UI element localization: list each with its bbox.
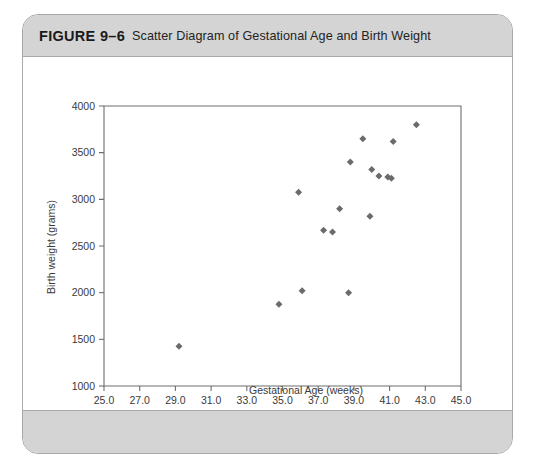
x-tick-label: 31.0	[201, 394, 222, 406]
x-tick-label: 41.0	[379, 394, 400, 406]
data-point	[390, 138, 397, 145]
data-point	[347, 159, 354, 166]
data-point	[295, 189, 302, 196]
data-point	[275, 301, 282, 308]
data-point	[329, 229, 336, 236]
x-tick-label: 27.0	[129, 394, 150, 406]
figure-card: FIGURE 9–6 Scatter Diagram of Gestationa…	[22, 14, 513, 454]
y-axis-tick-labels: 1000150020002500300035004000	[72, 100, 96, 392]
y-axis-ticks	[99, 106, 104, 386]
data-point-group	[175, 121, 419, 350]
x-tick-label: 43.0	[415, 394, 436, 406]
y-tick-label: 1500	[72, 333, 96, 345]
data-point	[175, 343, 182, 350]
y-tick-label: 2000	[72, 286, 96, 298]
figure-footer	[23, 410, 512, 453]
figure-title: Scatter Diagram of Gestational Age and B…	[132, 29, 431, 43]
y-tick-label: 1000	[72, 380, 96, 392]
scatter-chart: 25.027.029.031.033.035.037.039.041.043.0…	[23, 57, 513, 413]
x-tick-label: 25.0	[94, 394, 115, 406]
data-point	[366, 213, 373, 220]
data-point	[299, 287, 306, 294]
data-point	[375, 173, 382, 180]
data-point	[368, 166, 375, 173]
x-tick-label: 45.0	[451, 394, 472, 406]
plot-area: 25.027.029.031.033.035.037.039.041.043.0…	[23, 57, 512, 413]
y-tick-label: 2500	[72, 240, 96, 252]
data-point	[359, 135, 366, 142]
data-point	[336, 205, 343, 212]
figure-number: FIGURE 9–6	[39, 28, 125, 44]
figure-header: FIGURE 9–6 Scatter Diagram of Gestationa…	[23, 15, 512, 57]
y-axis-title: Birth weight (grams)	[45, 200, 57, 294]
data-point	[345, 289, 352, 296]
y-tick-label: 3500	[72, 146, 96, 158]
y-tick-label: 4000	[72, 100, 96, 112]
data-point	[320, 227, 327, 234]
x-axis-title: Gestational Age (weeks)	[249, 384, 363, 396]
data-point	[413, 121, 420, 128]
y-tick-label: 3000	[72, 193, 96, 205]
x-tick-label: 29.0	[165, 394, 186, 406]
plot-frame	[104, 106, 461, 386]
